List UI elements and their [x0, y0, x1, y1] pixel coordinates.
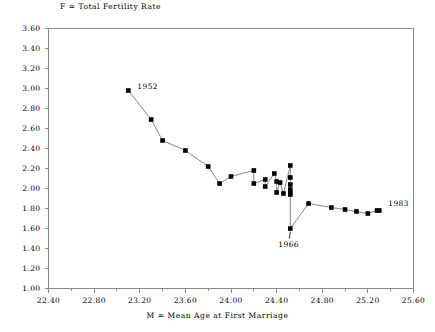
y-tick-label: 3.20	[7, 64, 41, 73]
axis-frame	[49, 29, 414, 289]
x-tick-label: 24.40	[257, 296, 297, 305]
x-tick-label: 23.60	[165, 296, 205, 305]
plot-area	[0, 0, 435, 332]
point-annotation-label: 1966	[278, 240, 299, 249]
annotation-leader-lines	[289, 232, 290, 239]
fertility-marriage-scatter-chart: F = Total Fertility Rate 3.603.403.203.0…	[0, 0, 435, 332]
x-tick-label: 22.80	[74, 296, 114, 305]
series-line-path	[128, 91, 379, 229]
x-tick-label: 24.80	[302, 296, 342, 305]
point-annotation-label: 1952	[137, 82, 158, 91]
x-tick-label: 23.20	[120, 296, 160, 305]
y-tick-label: 2.00	[7, 184, 41, 193]
x-tick-label: 24.00	[211, 296, 251, 305]
y-tick-label: 1.40	[7, 244, 41, 253]
major-tick-marks	[45, 29, 414, 293]
y-tick-label: 3.00	[7, 84, 41, 93]
series-data-markers	[126, 88, 382, 231]
y-tick-label: 1.80	[7, 204, 41, 213]
y-tick-label: 2.80	[7, 104, 41, 113]
y-tick-label: 2.60	[7, 124, 41, 133]
y-tick-label: 1.20	[7, 264, 41, 273]
y-tick-label: 1.00	[7, 284, 41, 293]
x-tick-label: 22.40	[29, 296, 69, 305]
x-tick-label: 25.60	[394, 296, 434, 305]
point-annotation-label: 1983	[388, 199, 409, 208]
y-tick-label: 2.20	[7, 164, 41, 173]
y-tick-label: 3.40	[7, 44, 41, 53]
y-tick-label: 2.40	[7, 144, 41, 153]
y-tick-label: 1.60	[7, 224, 41, 233]
x-axis-title: M = Mean Age at First Marriage	[0, 311, 435, 320]
x-tick-label: 25.20	[348, 296, 388, 305]
y-tick-label: 3.60	[7, 24, 41, 33]
